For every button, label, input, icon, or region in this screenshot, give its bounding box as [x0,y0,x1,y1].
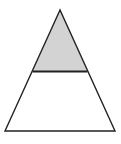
diagram-canvas [0,0,121,144]
triangle-diagram [0,0,121,144]
shaded-top-triangle [33,10,88,72]
